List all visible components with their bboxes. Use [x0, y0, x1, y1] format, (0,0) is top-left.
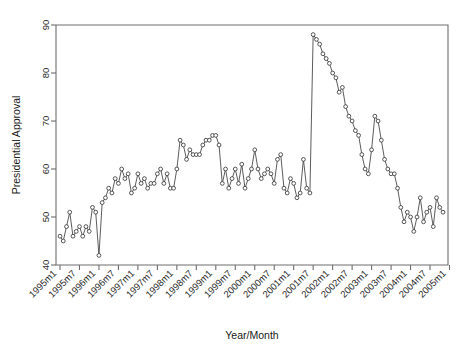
data-point — [207, 138, 211, 142]
data-point — [318, 42, 322, 46]
data-point — [366, 172, 370, 176]
data-point — [373, 114, 377, 118]
data-point — [370, 148, 374, 152]
data-point — [120, 167, 124, 171]
data-point — [360, 153, 364, 157]
data-point — [113, 177, 117, 181]
x-axis-tick-labels: 1995m11995m71996m11996m71997m11997m71998… — [26, 268, 448, 300]
data-point — [315, 38, 319, 42]
data-point — [363, 167, 367, 171]
y-axis-tick-labels: 405060708090 — [40, 20, 51, 271]
data-point — [68, 210, 72, 214]
data-point — [357, 134, 361, 138]
approval-markers — [58, 33, 445, 258]
data-point — [230, 177, 234, 181]
data-point — [272, 182, 276, 186]
data-point — [263, 172, 267, 176]
data-point — [201, 143, 205, 147]
data-point — [298, 191, 302, 195]
data-point — [409, 215, 413, 219]
y-axis-title: Presidential Approval — [10, 96, 22, 195]
data-point — [159, 167, 163, 171]
data-point — [425, 210, 429, 214]
data-point — [383, 158, 387, 162]
data-point — [87, 230, 91, 234]
data-point — [107, 186, 111, 190]
data-point — [256, 167, 260, 171]
y-tick-label-50: 50 — [40, 212, 51, 223]
data-point — [334, 76, 338, 80]
data-point — [139, 182, 143, 186]
x-axis-ticks — [60, 265, 449, 270]
data-point — [441, 210, 445, 214]
y-tick-label-90: 90 — [40, 20, 51, 31]
data-point — [308, 191, 312, 195]
data-point — [302, 158, 306, 162]
data-point — [91, 206, 95, 210]
data-point — [162, 182, 166, 186]
data-point — [253, 148, 257, 152]
data-point — [136, 172, 140, 176]
data-point — [65, 225, 69, 229]
data-point — [74, 230, 78, 234]
data-point — [279, 153, 283, 157]
data-point — [214, 134, 218, 138]
data-point — [289, 177, 293, 181]
data-point — [392, 172, 396, 176]
data-point — [386, 167, 390, 171]
data-point — [117, 182, 121, 186]
data-point — [146, 186, 150, 190]
data-point — [379, 138, 383, 142]
data-point — [246, 177, 250, 181]
data-point — [155, 172, 159, 176]
data-point — [347, 114, 351, 118]
data-point — [438, 206, 442, 210]
data-point — [431, 225, 435, 229]
data-point — [237, 182, 241, 186]
data-point — [266, 167, 270, 171]
approval-line — [60, 35, 443, 256]
data-point — [418, 196, 422, 200]
data-point — [331, 71, 335, 75]
data-point — [324, 57, 328, 61]
data-point — [269, 172, 273, 176]
data-point — [350, 119, 354, 123]
data-point — [104, 196, 108, 200]
approval-time-series-chart: 405060708090 1995m11995m71996m11996m7199… — [0, 0, 471, 347]
data-point — [133, 186, 137, 190]
data-point — [340, 86, 344, 90]
data-point — [178, 138, 182, 142]
data-point — [276, 158, 280, 162]
data-point — [233, 167, 237, 171]
data-point — [321, 52, 325, 56]
data-point — [61, 239, 65, 243]
data-point — [328, 62, 332, 66]
data-point — [152, 182, 156, 186]
y-tick-label-70: 70 — [40, 116, 51, 127]
data-point — [198, 153, 202, 157]
data-point — [142, 177, 146, 181]
data-point — [305, 186, 309, 190]
data-point — [172, 186, 176, 190]
chart-canvas: 405060708090 1995m11995m71996m11996m7199… — [0, 0, 471, 347]
data-point — [97, 254, 101, 258]
data-point — [396, 186, 400, 190]
data-point — [295, 196, 299, 200]
data-point — [185, 158, 189, 162]
plot-frame — [56, 25, 448, 265]
data-point — [337, 90, 341, 94]
data-point — [376, 119, 380, 123]
data-point — [78, 225, 82, 229]
data-point — [110, 191, 114, 195]
data-point — [282, 186, 286, 190]
x-axis-title: Year/Month — [225, 329, 278, 341]
y-tick-label-80: 80 — [40, 68, 51, 79]
data-point — [58, 234, 62, 238]
data-point — [84, 225, 88, 229]
data-point — [422, 220, 426, 224]
data-point — [259, 177, 263, 181]
data-point — [399, 206, 403, 210]
data-point — [402, 220, 406, 224]
data-point — [130, 191, 134, 195]
data-point — [71, 234, 75, 238]
